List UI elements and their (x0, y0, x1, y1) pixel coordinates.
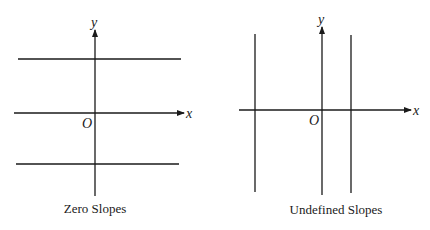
undefined-slopes-figure: y x O Undefined Slopes (239, 12, 420, 217)
y-axis-label: y (89, 15, 98, 30)
origin-label: O (309, 113, 319, 128)
y-axis-label: y (316, 12, 325, 27)
zero-slopes-figure: y x O Zero Slopes (14, 15, 193, 216)
x-axis-label: x (412, 103, 420, 118)
origin-label: O (82, 116, 92, 131)
x-axis-label: x (185, 106, 193, 121)
figure-caption: Zero Slopes (64, 201, 126, 216)
figure-caption: Undefined Slopes (290, 202, 383, 217)
slopes-diagram: y x O Zero Slopes y x O Undefined Slopes (0, 0, 430, 230)
